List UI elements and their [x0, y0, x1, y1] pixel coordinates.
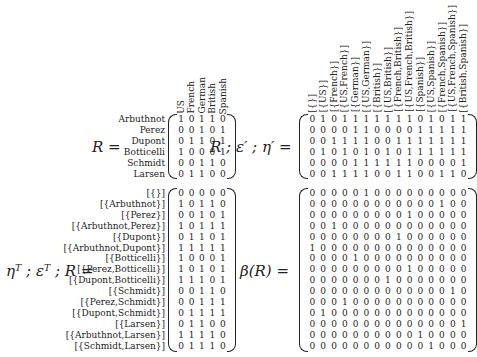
- matrix-cell: 0: [415, 158, 426, 169]
- matrix-cell: 1: [207, 221, 217, 232]
- matrix-cell: 1: [176, 253, 186, 264]
- matrix-cell: 0: [339, 308, 350, 319]
- matrix-cell: 0: [307, 275, 318, 286]
- matrix-cell: 0: [426, 188, 437, 199]
- matrix-cell: 0: [415, 253, 426, 264]
- matrix-cell: 0: [447, 308, 458, 319]
- matrix-cell: 1: [339, 136, 350, 147]
- matrix-cell: 1: [197, 136, 207, 147]
- matrix-cell: 0: [197, 253, 207, 264]
- matrix-cell: 0: [339, 275, 350, 286]
- matrix-cell: 0: [393, 243, 404, 254]
- col-label: [{US,Spanish}]: [426, 41, 437, 112]
- right-paren: [468, 114, 477, 179]
- matrix-cell: 1: [329, 169, 340, 180]
- matrix-cell: 1: [437, 136, 448, 147]
- matrix-cell: 1: [361, 114, 372, 125]
- col-label: [{}]: [307, 94, 318, 112]
- matrix-cell: 1: [197, 264, 207, 275]
- row-label: [{Dupont}]: [55, 232, 165, 243]
- matrix-cell: 0: [307, 297, 318, 308]
- matrix-cell: 0: [176, 125, 186, 136]
- matrix-row: 00110: [176, 158, 228, 169]
- matrix-cell: 0: [404, 243, 415, 254]
- matrix-cell: 0: [350, 330, 361, 341]
- matrix-cell: 0: [361, 308, 372, 319]
- matrix-cell: 0: [176, 188, 186, 199]
- matrix-cell: 0: [383, 253, 394, 264]
- matrix-cell: 0: [447, 319, 458, 330]
- r-eps-eta-equation-label: R ; ε′ ; η′ =: [210, 138, 292, 156]
- matrix-cell: 0: [437, 308, 448, 319]
- matrix-cell: 0: [339, 330, 350, 341]
- matrix-cell: 0: [361, 264, 372, 275]
- matrix-cell: 0: [404, 319, 415, 330]
- matrix-cell: 1: [197, 199, 207, 210]
- matrix-cell: 0: [437, 319, 448, 330]
- matrix-row: 01100: [176, 319, 228, 330]
- matrix-cell: 0: [176, 210, 186, 221]
- matrix-cell: 0: [197, 188, 207, 199]
- matrix-cell: 1: [415, 147, 426, 158]
- matrix-cell: 0: [383, 125, 394, 136]
- matrix-cell: 0: [307, 221, 318, 232]
- matrix-cell: 1: [307, 243, 318, 254]
- matrix-cell: 1: [350, 253, 361, 264]
- matrix-cell: 0: [186, 286, 196, 297]
- matrix-cell: 1: [383, 147, 394, 158]
- matrix-cell: 0: [307, 286, 318, 297]
- matrix-cell: 0: [393, 297, 404, 308]
- row-label: [{Arbuthnot,Perez}]: [55, 221, 165, 232]
- matrix-cell: 0: [339, 125, 350, 136]
- matrix-cell: 0: [415, 286, 426, 297]
- matrix-cell: 1: [426, 147, 437, 158]
- row-label: [{Arbuthnot}]: [55, 199, 165, 210]
- row-label: [{Dupont,Schmidt}]: [55, 308, 165, 319]
- matrix-cell: 0: [393, 188, 404, 199]
- matrix-cell: 0: [318, 221, 329, 232]
- matrix-cell: 0: [393, 125, 404, 136]
- matrix-cell: 0: [437, 264, 448, 275]
- matrix-cell: 0: [372, 188, 383, 199]
- matrix-cell: 0: [383, 210, 394, 221]
- matrix-cell: 0: [415, 232, 426, 243]
- matrix-cell: 1: [207, 199, 217, 210]
- matrix-cell: 0: [307, 308, 318, 319]
- matrix-cell: 0: [176, 232, 186, 243]
- matrix-cell: 0: [307, 253, 318, 264]
- matrix-cell: 0: [318, 136, 329, 147]
- matrix-cell: 0: [361, 286, 372, 297]
- matrix-cell: 1: [361, 169, 372, 180]
- col-label: [{British}]: [372, 63, 383, 112]
- matrix-cell: 1: [393, 169, 404, 180]
- matrix-cell: 0: [383, 297, 394, 308]
- matrix-cell: 0: [437, 188, 448, 199]
- matrix-cell: 0: [393, 253, 404, 264]
- col-label: [{Spanish}]: [415, 57, 426, 112]
- matrix-cell: 1: [186, 330, 196, 341]
- matrix-cell: 0: [318, 286, 329, 297]
- matrix-cell: 1: [186, 341, 196, 352]
- matrix-cell: 0: [329, 114, 340, 125]
- matrix-cell: 0: [383, 221, 394, 232]
- matrix-cell: 0: [404, 188, 415, 199]
- matrix-cell: 0: [415, 114, 426, 125]
- matrix-cell: 0: [361, 253, 372, 264]
- matrix-cell: 0: [318, 158, 329, 169]
- matrix-cell: 0: [307, 136, 318, 147]
- matrix-cell: 0: [329, 286, 340, 297]
- row-label: [{Schmidt}]: [55, 286, 165, 297]
- beta-r-matrix: 0000010000000000000000000001000000000001…: [307, 188, 469, 352]
- matrix-cell: 1: [393, 232, 404, 243]
- matrix-cell: 0: [318, 253, 329, 264]
- matrix-row: 001111001111111: [307, 136, 469, 147]
- matrix-row: 10110: [176, 199, 228, 210]
- matrix-cell: 1: [415, 136, 426, 147]
- matrix-cell: 1: [361, 136, 372, 147]
- matrix-cell: 1: [197, 158, 207, 169]
- matrix-cell: 0: [318, 297, 329, 308]
- matrix-cell: 0: [372, 199, 383, 210]
- matrix-row: 00101: [176, 125, 228, 136]
- matrix-cell: 1: [415, 125, 426, 136]
- matrix-cell: 0: [339, 221, 350, 232]
